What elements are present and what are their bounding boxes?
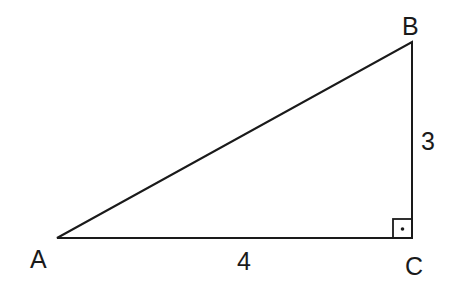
vertex-label-c: C <box>405 252 423 280</box>
side-label-ac: 4 <box>237 247 251 275</box>
right-angle-dot <box>401 227 405 231</box>
triangle-abc <box>57 42 412 238</box>
triangle-diagram: A B C 4 3 <box>0 0 458 290</box>
vertex-label-a: A <box>30 245 47 273</box>
vertex-label-b: B <box>402 12 419 40</box>
side-label-bc: 3 <box>421 127 435 155</box>
